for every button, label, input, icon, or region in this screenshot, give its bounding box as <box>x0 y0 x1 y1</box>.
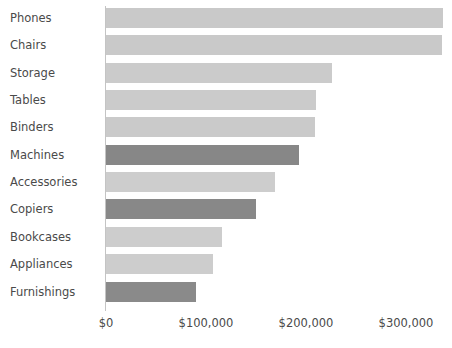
x-tick-label: $100,000 <box>179 316 234 330</box>
x-tick-label: $0 <box>99 316 114 330</box>
bar-row: Bookcases <box>0 227 452 247</box>
bar-category-label: Accessories <box>10 172 77 192</box>
bar-appliances[interactable] <box>106 254 213 274</box>
plot-area: PhonesChairsStorageTablesBindersMachines… <box>0 0 452 348</box>
bar-row: Copiers <box>0 199 452 219</box>
bar-tables[interactable] <box>106 90 316 110</box>
bar-row: Binders <box>0 117 452 137</box>
bar-binders[interactable] <box>106 117 315 137</box>
bar-storage[interactable] <box>106 63 332 83</box>
bar-category-label: Furnishings <box>10 282 75 302</box>
bar-category-label: Storage <box>10 63 55 83</box>
bar-chairs[interactable] <box>106 35 442 55</box>
bar-category-label: Tables <box>10 90 46 110</box>
bar-chart: PhonesChairsStorageTablesBindersMachines… <box>0 0 452 348</box>
bar-category-label: Bookcases <box>10 227 71 247</box>
bar-furnishings[interactable] <box>106 282 196 302</box>
x-tick-label: $300,000 <box>379 316 434 330</box>
bar-row: Storage <box>0 63 452 83</box>
bar-category-label: Machines <box>10 145 64 165</box>
bar-category-label: Phones <box>10 8 52 28</box>
bar-accessories[interactable] <box>106 172 275 192</box>
x-tick-label: $200,000 <box>279 316 334 330</box>
bar-category-label: Copiers <box>10 199 53 219</box>
bar-row: Tables <box>0 90 452 110</box>
bar-copiers[interactable] <box>106 199 256 219</box>
bar-row: Phones <box>0 8 452 28</box>
bar-category-label: Appliances <box>10 254 73 274</box>
bar-category-label: Chairs <box>10 35 46 55</box>
bar-category-label: Binders <box>10 117 53 137</box>
bar-machines[interactable] <box>106 145 299 165</box>
bar-row: Chairs <box>0 35 452 55</box>
bar-row: Machines <box>0 145 452 165</box>
bar-row: Appliances <box>0 254 452 274</box>
bar-row: Accessories <box>0 172 452 192</box>
bar-row: Furnishings <box>0 282 452 302</box>
bar-bookcases[interactable] <box>106 227 222 247</box>
bar-phones[interactable] <box>106 8 443 28</box>
